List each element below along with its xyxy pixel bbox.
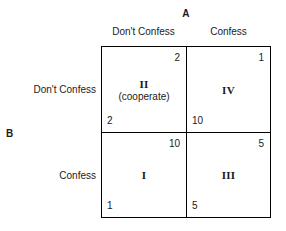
matrix-cell-i: 10 I 1: [102, 132, 186, 217]
payoff-a-cell-iii: 5: [258, 139, 264, 149]
payoff-b-cell-iv: 10: [192, 116, 203, 126]
matrix-cell-iii: 5 III 5: [186, 132, 270, 217]
matrix-cell-iv: 1 IV 10: [186, 47, 270, 132]
payoff-b-cell-i: 1: [107, 201, 113, 211]
row-header-dont-confess: Don't Confess: [0, 84, 96, 95]
payoff-a-cell-iv: 1: [258, 53, 264, 63]
cell-ii-center: II (cooperate): [102, 77, 186, 102]
cell-ii-numeral: II: [102, 77, 186, 90]
payoff-b-cell-ii: 2: [107, 116, 113, 126]
cell-iii-center: III: [187, 169, 270, 182]
column-header-confess: Confess: [186, 26, 271, 37]
cell-i-center: I: [102, 169, 186, 182]
cell-i-numeral: I: [102, 169, 186, 182]
payoff-matrix-diagram: A B Don't Confess Confess Don't Confess …: [0, 0, 286, 231]
payoff-b-cell-iii: 5: [192, 201, 198, 211]
cell-iv-numeral: IV: [187, 83, 270, 96]
cell-ii-sublabel: (cooperate): [102, 90, 186, 102]
payoff-a-cell-ii: 2: [174, 53, 180, 63]
matrix-cell-ii: 2 II (cooperate) 2: [102, 47, 186, 132]
cell-iii-numeral: III: [187, 169, 270, 182]
column-player-label: A: [101, 8, 271, 19]
column-header-dont-confess: Don't Confess: [101, 26, 186, 37]
payoff-a-cell-i: 10: [169, 139, 180, 149]
matrix-grid: 2 II (cooperate) 2 1 IV 10 10 I 1 5 III: [101, 46, 271, 218]
cell-iv-center: IV: [187, 83, 270, 96]
row-header-confess: Confess: [0, 170, 96, 181]
row-player-label: B: [6, 128, 13, 139]
